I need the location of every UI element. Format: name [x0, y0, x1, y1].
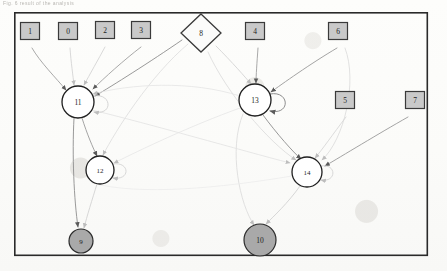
node-0[interactable]: 0	[59, 23, 78, 40]
edge-6-13	[271, 48, 337, 92]
node-13[interactable]: 13	[239, 84, 271, 116]
node-11[interactable]: 11	[62, 86, 94, 118]
node-8[interactable]: 8	[181, 14, 221, 52]
edge-13-10	[236, 114, 254, 225]
edge-8-13	[216, 46, 251, 84]
node-6[interactable]: 6	[329, 23, 348, 40]
selfloop-11	[93, 96, 108, 113]
node-layer: 1 0 2 3 4 6 5	[21, 14, 425, 256]
edge-11-12	[82, 118, 97, 156]
node-9[interactable]: 9	[69, 229, 93, 253]
edge-11-9	[73, 118, 78, 227]
edge-layer	[32, 40, 408, 228]
node-2[interactable]: 2	[96, 22, 115, 39]
edge-8-12	[103, 44, 188, 155]
diagram-stage: Fig. 6 result of the analysis	[0, 0, 447, 271]
edge-11-14	[92, 110, 290, 163]
selfloop-12	[113, 164, 126, 179]
edge-1-11	[32, 48, 66, 90]
edge-14-11-faint	[92, 176, 292, 190]
node-14[interactable]: 14	[292, 157, 322, 187]
node-12[interactable]: 12	[86, 156, 114, 184]
node-4[interactable]: 4	[246, 23, 265, 40]
node-5[interactable]: 5	[336, 92, 355, 109]
node-1[interactable]: 1	[21, 23, 40, 40]
node-3[interactable]: 3	[132, 22, 151, 39]
node-10[interactable]: 10	[244, 224, 276, 256]
edge-4-13	[256, 48, 258, 83]
selfloop-13	[270, 94, 285, 112]
edge-12-9	[84, 184, 97, 228]
edge-2-11	[84, 47, 105, 85]
graph-canvas: 1 0 2 3 4 6 5	[0, 0, 447, 271]
edge-13-12-faint	[114, 108, 240, 163]
edge-7-14	[325, 117, 408, 166]
edge-0-11	[70, 48, 74, 85]
edge-13-11	[93, 85, 240, 96]
node-7[interactable]: 7	[406, 92, 425, 109]
selfloop-14	[321, 166, 333, 181]
edge-5-14	[315, 117, 346, 158]
edge-14-10	[266, 186, 300, 224]
